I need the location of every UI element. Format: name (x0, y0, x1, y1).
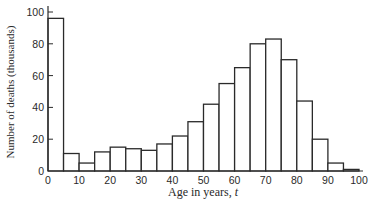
x-axis-label: Age in years, t (168, 185, 239, 199)
x-tick-label: 20 (104, 174, 116, 186)
x-tick-label: 10 (73, 174, 85, 186)
histogram-bar (110, 147, 126, 171)
histogram-bar (204, 104, 220, 171)
y-tick-label: 60 (32, 70, 44, 82)
histogram-bar (95, 152, 111, 171)
x-tick-label: 100 (350, 174, 368, 186)
histogram-bar (48, 18, 64, 171)
y-tick-label: 40 (32, 101, 44, 113)
histogram-bar (281, 60, 297, 171)
x-tick-label: 30 (135, 174, 147, 186)
x-tick-label: 0 (45, 174, 51, 186)
histogram-bar (188, 122, 204, 171)
histogram-bar (172, 136, 188, 171)
x-tick-label: 80 (291, 174, 303, 186)
histogram-bar (141, 150, 157, 171)
histogram-bar (219, 84, 235, 171)
y-tick-label: 100 (26, 6, 44, 18)
histogram-bars (48, 18, 359, 171)
x-tick-label: 70 (260, 174, 272, 186)
histogram-bar (297, 101, 313, 171)
histogram-bar (79, 163, 95, 171)
histogram-chart: 0102030405060708090100 020406080100 Age … (0, 0, 372, 206)
y-axis-label: Number of deaths (thousands) (4, 25, 17, 158)
y-tick-label: 80 (32, 38, 44, 50)
x-tick-label: 90 (322, 174, 334, 186)
histogram-bar (126, 149, 142, 171)
histogram-bar (328, 163, 344, 171)
histogram-bar (312, 139, 328, 171)
histogram-bar (235, 68, 251, 171)
histogram-bar (64, 154, 80, 171)
histogram-bar (266, 39, 282, 171)
histogram-bar (157, 144, 173, 171)
histogram-bar (250, 44, 266, 171)
y-tick-label: 20 (32, 133, 44, 145)
y-tick-label: 0 (38, 165, 44, 177)
